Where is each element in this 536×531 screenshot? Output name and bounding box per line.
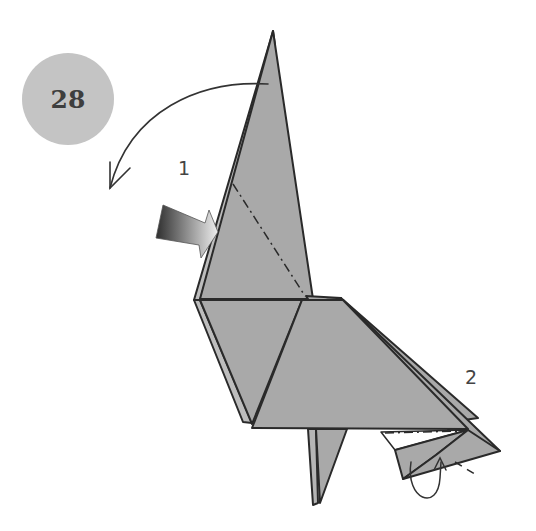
arrow-head-icon: [110, 162, 130, 188]
origami-model: [194, 31, 500, 505]
head-flap: [200, 31, 313, 299]
valley-fold-tail: [455, 462, 478, 476]
annotation-1: 1: [178, 157, 190, 179]
annotation-2: 2: [465, 366, 477, 388]
leg-front: [316, 429, 347, 503]
step-number: 28: [51, 85, 86, 114]
step-number-badge: 28: [22, 53, 114, 145]
